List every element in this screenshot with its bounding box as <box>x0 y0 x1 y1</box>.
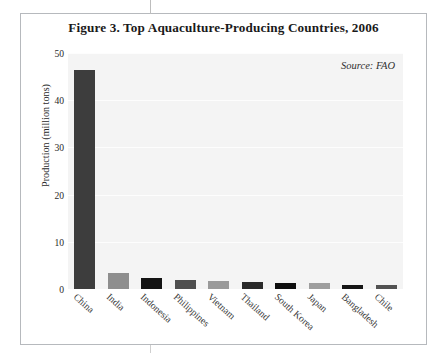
x-axis-ticks: ChinaIndiaIndonesiaPhilippinesVietnamTha… <box>68 291 403 345</box>
x-axis-tick-label: Indonesia <box>138 291 174 325</box>
y-axis-tick-label: 10 <box>30 236 64 247</box>
bar <box>342 285 363 289</box>
bar <box>275 283 296 289</box>
bar <box>74 70 95 289</box>
figure-title: Figure 3. Top Aquaculture-Producing Coun… <box>21 20 426 36</box>
gridline <box>68 242 403 243</box>
bar <box>141 278 162 289</box>
gridline <box>68 147 403 148</box>
x-axis-tick-label: Chile <box>373 291 396 313</box>
bar <box>309 283 330 289</box>
bar <box>208 281 229 289</box>
x-axis-tick-label: India <box>105 291 127 313</box>
gridline <box>68 100 403 101</box>
x-axis-tick-label: Thailand <box>239 291 272 322</box>
x-axis-tick-label: Vietnam <box>205 291 237 321</box>
x-axis-tick-label: Japan <box>306 291 330 314</box>
bar <box>242 282 263 289</box>
figure-container: Figure 3. Top Aquaculture-Producing Coun… <box>20 13 427 345</box>
y-axis-label: Production (million tons) <box>40 46 51 226</box>
x-axis-tick-label: Philippines <box>172 291 212 329</box>
bar <box>376 285 397 289</box>
gridline <box>68 195 403 196</box>
source-annotation: Source: FAO <box>341 60 395 71</box>
gridline <box>68 53 403 54</box>
plot-area: Source: FAO <box>68 53 403 289</box>
y-axis-tick-label: 0 <box>30 284 64 295</box>
page-seam-top <box>150 0 151 14</box>
bar <box>108 273 129 289</box>
x-axis-tick-label: China <box>71 291 96 315</box>
bar <box>175 280 196 289</box>
